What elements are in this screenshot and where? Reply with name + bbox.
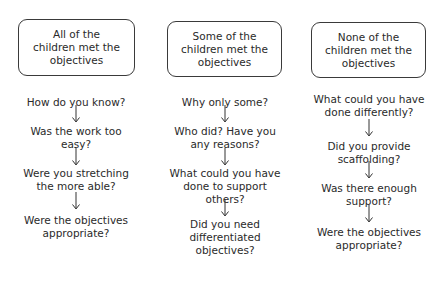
down-arrow-icon: [364, 119, 374, 137]
outcome-box-some: Some of thechildren met theobjectives: [167, 21, 282, 77]
question-line: Were the objectives: [294, 226, 444, 239]
outcome-box-line: children met the: [325, 44, 412, 57]
question-line: done differently?: [294, 106, 444, 119]
down-arrow-icon: [220, 199, 230, 217]
outcome-box-line: objectives: [325, 57, 412, 70]
outcome-box-line: children met the: [33, 41, 120, 54]
outcome-box-line: Some of the: [181, 30, 268, 43]
question-line: appropriate?: [294, 239, 444, 252]
outcome-box-none: None of thechildren met theobjectives: [311, 22, 426, 78]
question-line: differentiated: [150, 231, 300, 244]
question-line: objectives?: [150, 244, 300, 257]
down-arrow-icon: [220, 148, 230, 166]
outcome-box-all: All of thechildren met theobjectives: [18, 19, 135, 76]
question-line: appropriate?: [1, 227, 151, 240]
down-arrow-icon: [364, 161, 374, 179]
outcome-box-line: objectives: [33, 54, 120, 67]
down-arrow-icon: [71, 105, 81, 123]
question-line: Were you stretching: [1, 167, 151, 180]
question: Were the objectivesappropriate?: [1, 214, 151, 240]
question-line: Was the work too: [1, 125, 151, 138]
question-line: Was there enough: [294, 182, 444, 195]
down-arrow-icon: [71, 192, 81, 210]
down-arrow-icon: [71, 148, 81, 166]
down-arrow-icon: [220, 105, 230, 123]
outcome-box-line: objectives: [181, 56, 268, 69]
question-line: Did you provide: [294, 140, 444, 153]
outcome-box-line: All of the: [33, 28, 120, 41]
outcome-box-line: children met the: [181, 43, 268, 56]
question: What could you havedone differently?: [294, 93, 444, 119]
question: Were you stretchingthe more able?: [1, 167, 151, 193]
question-line: What could you have: [294, 93, 444, 106]
question-line: done to support: [150, 180, 300, 193]
question-line: Were the objectives: [1, 214, 151, 227]
question-line: What could you have: [150, 167, 300, 180]
down-arrow-icon: [364, 205, 374, 223]
question: Were the objectivesappropriate?: [294, 226, 444, 252]
outcome-box-line: None of the: [325, 31, 412, 44]
question: Did you needdifferentiatedobjectives?: [150, 218, 300, 257]
question-line: Did you need: [150, 218, 300, 231]
question-line: Who did? Have you: [150, 125, 300, 138]
